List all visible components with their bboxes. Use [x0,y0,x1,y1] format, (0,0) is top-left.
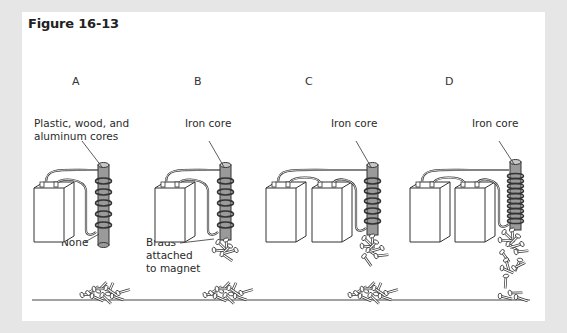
setup-c [266,141,398,304]
setup-d [410,141,528,301]
ground-brads-d [498,287,528,301]
attached-brads-b [212,237,239,261]
attached-brads-c [360,233,389,266]
setup-a [34,141,130,304]
attached-brads-d [498,227,529,288]
setup-b [155,141,253,304]
electromagnet-diagram [0,0,567,333]
